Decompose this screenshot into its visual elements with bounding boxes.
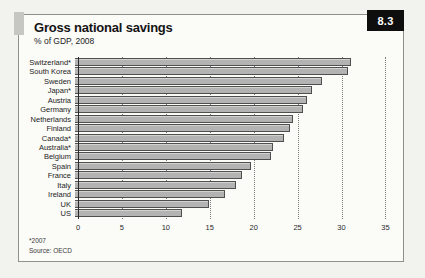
bar-row: Finland xyxy=(19,124,401,133)
bar-track xyxy=(75,134,401,143)
country-label: Finland xyxy=(19,124,75,133)
bar xyxy=(75,77,322,85)
corner-tab-decoration xyxy=(14,12,24,35)
country-label: Netherlands xyxy=(19,115,75,124)
footnote-block: *2007 Source: OECD xyxy=(29,236,72,255)
bar-row: Germany xyxy=(19,105,401,114)
bar-track xyxy=(75,115,401,124)
bar-track xyxy=(75,181,401,190)
country-label: France xyxy=(19,171,75,180)
country-label: Germany xyxy=(19,105,75,114)
bar-row: France xyxy=(19,171,401,180)
bar xyxy=(75,209,182,217)
country-label: Sweden xyxy=(19,77,75,86)
bar-track xyxy=(75,209,401,218)
bar xyxy=(75,200,209,208)
bar-row: Canada* xyxy=(19,134,401,143)
country-label: US xyxy=(19,209,75,218)
country-label: Austria xyxy=(19,96,75,105)
bar xyxy=(75,124,290,132)
bar-track xyxy=(75,171,401,180)
source-note: Source: OECD xyxy=(29,246,72,255)
bar-row: Belgium xyxy=(19,152,401,161)
bar xyxy=(75,190,225,198)
country-label: Australia* xyxy=(19,143,75,152)
bar-row: US xyxy=(19,209,401,218)
bar-track xyxy=(75,105,401,114)
bar-row: Sweden xyxy=(19,77,401,86)
bar-track xyxy=(75,96,401,105)
tick-label-30: 30 xyxy=(337,223,345,232)
bar xyxy=(75,143,273,151)
bar-track xyxy=(75,124,401,133)
bar-track xyxy=(75,58,401,67)
bar-rows: Switzerland*South KoreaSwedenJapan*Austr… xyxy=(19,57,401,219)
bar-row: Italy xyxy=(19,181,401,190)
tick-label-20: 20 xyxy=(250,223,258,232)
bar xyxy=(75,134,284,142)
tick-label-35: 35 xyxy=(381,223,389,232)
bar-track xyxy=(75,77,401,86)
tick-label-15: 15 xyxy=(206,223,214,232)
bar-track xyxy=(75,67,401,76)
bar xyxy=(75,115,293,123)
footnote: *2007 xyxy=(29,236,72,245)
chart-title: Gross national savings xyxy=(34,20,173,35)
bar-track xyxy=(75,162,401,171)
bar-track xyxy=(75,200,401,209)
country-label: UK xyxy=(19,200,75,209)
page: { "page": { "badge": "8.3", "title": "Gr… xyxy=(0,0,425,278)
bar xyxy=(75,162,251,170)
bar-row: Ireland xyxy=(19,190,401,199)
bar-row: Australia* xyxy=(19,143,401,152)
country-label: Italy xyxy=(19,181,75,190)
tick-label-5: 5 xyxy=(120,223,124,232)
bar-row: UK xyxy=(19,200,401,209)
bar xyxy=(75,171,242,179)
figure-number-badge: 8.3 xyxy=(367,10,404,31)
country-label: Spain xyxy=(19,162,75,171)
bar-row: Spain xyxy=(19,162,401,171)
bar-chart: Switzerland*South KoreaSwedenJapan*Austr… xyxy=(19,57,403,237)
bar xyxy=(75,58,351,66)
tick-label-10: 10 xyxy=(162,223,170,232)
country-label: Japan* xyxy=(19,86,75,95)
bar xyxy=(75,105,303,113)
bar xyxy=(75,152,271,160)
bar-row: Netherlands xyxy=(19,115,401,124)
bar-row: Austria xyxy=(19,96,401,105)
bar xyxy=(75,67,348,75)
chart-subtitle: % of GDP, 2008 xyxy=(34,36,94,46)
bar-track xyxy=(75,86,401,95)
tick-label-0: 0 xyxy=(76,223,80,232)
bar-track xyxy=(75,152,401,161)
bar-row: Japan* xyxy=(19,86,401,95)
bar-track xyxy=(75,190,401,199)
chart-panel: 8.3 Gross national savings % of GDP, 200… xyxy=(18,14,404,262)
tick-label-25: 25 xyxy=(293,223,301,232)
country-label: South Korea xyxy=(19,67,75,76)
bar-row: South Korea xyxy=(19,67,401,76)
country-label: Switzerland* xyxy=(19,58,75,67)
bar xyxy=(75,181,236,189)
x-axis-tick-labels: 05101520253035 xyxy=(78,223,403,235)
bar xyxy=(75,96,307,104)
country-label: Canada* xyxy=(19,134,75,143)
bar xyxy=(75,86,312,94)
country-label: Ireland xyxy=(19,190,75,199)
country-label: Belgium xyxy=(19,152,75,161)
bar-row: Switzerland* xyxy=(19,58,401,67)
bar-track xyxy=(75,143,401,152)
y-axis-line xyxy=(78,57,79,219)
